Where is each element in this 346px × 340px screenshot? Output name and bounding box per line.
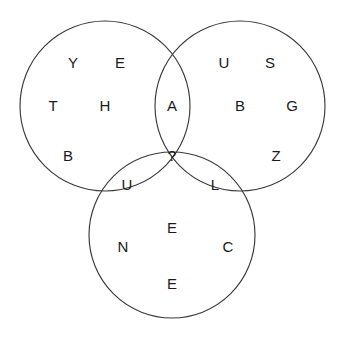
- letter-bottom-n: N: [118, 239, 129, 254]
- letter-right-g: G: [286, 98, 298, 113]
- letter-bottom-e-low: E: [167, 276, 177, 291]
- letter-left-b: B: [63, 148, 73, 163]
- letter-bottom-e-top: E: [167, 220, 177, 235]
- letter-right-u: U: [219, 55, 230, 70]
- letter-left-bottom-u: U: [122, 177, 133, 192]
- letter-bottom-c: C: [223, 239, 234, 254]
- letter-left-e: E: [115, 55, 125, 70]
- letter-left-t: T: [48, 98, 57, 113]
- venn-letter-puzzle: Y E T H B A U S B G Z ? U L E N C E: [0, 0, 346, 340]
- letter-left-y: Y: [68, 55, 78, 70]
- letter-left-h: H: [100, 98, 111, 113]
- letter-right-s: S: [265, 55, 275, 70]
- letter-top-overlap-a: A: [167, 98, 177, 113]
- letter-right-bottom-l: L: [211, 177, 219, 192]
- letter-right-z: Z: [271, 148, 280, 163]
- letter-center-question-mark: ?: [168, 148, 176, 163]
- letter-right-b: B: [235, 98, 245, 113]
